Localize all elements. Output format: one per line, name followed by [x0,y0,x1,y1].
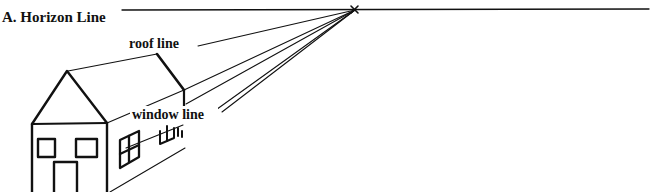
front-window-right [76,139,97,157]
horizon-line-label: A. Horizon Line [2,9,106,25]
house-front-gable [32,71,107,124]
perspective-lines [68,10,355,192]
window-line-label: window line [132,107,204,122]
front-door [54,162,77,192]
house-front-gable-base [32,123,107,124]
side-window-large [120,131,139,168]
horizon-line [122,9,649,10]
roof-line-label: roof line [129,36,179,51]
front-window-left [38,139,55,157]
roof-back-edge [157,54,184,90]
perspective-diagram: A. Horizon Line roof line [0,0,651,192]
side-window-small [160,126,182,144]
